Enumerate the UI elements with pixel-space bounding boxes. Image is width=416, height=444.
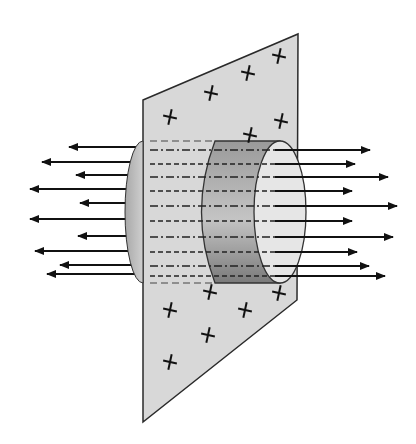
diagram-canvas	[0, 0, 416, 444]
gauss-pillbox-diagram	[0, 0, 416, 444]
cylinder-right-cap	[254, 141, 306, 283]
